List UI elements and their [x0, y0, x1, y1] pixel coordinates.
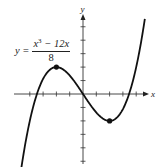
function-graph: x y [0, 0, 166, 167]
numerator-rest: − 12x [42, 38, 70, 49]
equation-numerator: x3 − 12x [32, 38, 70, 52]
local-max-point [54, 65, 59, 70]
x-axis-arrow-icon [143, 92, 149, 97]
local-min-point [107, 118, 112, 123]
equation-label: y = x3 − 12x 8 [15, 38, 70, 63]
axes [14, 14, 149, 164]
equation-lhs: y = [15, 45, 29, 56]
equation-denominator: 8 [49, 52, 54, 64]
equation-fraction: x3 − 12x 8 [32, 38, 70, 63]
y-axis-label: y [80, 4, 85, 14]
y-axis-arrow-icon [81, 14, 86, 20]
x-axis-label: x [150, 89, 155, 99]
